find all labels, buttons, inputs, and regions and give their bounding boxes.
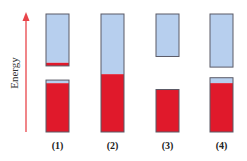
upper-band-empty-states [46, 14, 69, 63]
panel-1: (1) [46, 14, 69, 152]
upper-band-empty-states [210, 14, 233, 67]
lower-band-empty-states [210, 78, 233, 83]
panel-label: (2) [107, 140, 119, 152]
energy-axis-label: Energy [8, 57, 20, 89]
lower-band-filled-states [156, 90, 179, 132]
panel-3: (3) [156, 14, 179, 152]
lower-band-filled-states [46, 83, 69, 132]
energy-arrow-head [23, 12, 30, 21]
panel-4: (4) [210, 14, 233, 152]
upper-band-empty-states [156, 14, 179, 56]
lower-band-filled-states [210, 83, 233, 132]
single-band-empty-states [101, 14, 124, 74]
single-band-filled-states [101, 74, 124, 132]
panel-label: (4) [216, 140, 228, 152]
band-panels: (1)(2)(3)(4) [46, 14, 233, 152]
energy-band-diagram: Energy (1)(2)(3)(4) [0, 0, 247, 161]
energy-axis: Energy [8, 12, 30, 132]
panel-label: (3) [162, 140, 174, 152]
panel-label: (1) [52, 140, 64, 152]
panel-2: (2) [101, 14, 124, 152]
